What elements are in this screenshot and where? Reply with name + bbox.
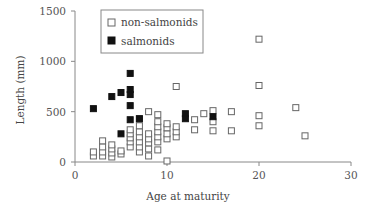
open-square-legend-icon (108, 19, 115, 26)
x-axis-title: Age at maturity (145, 190, 229, 202)
filled-square-marker (182, 116, 188, 122)
open-square-marker (256, 113, 262, 119)
open-square-marker (100, 144, 106, 150)
y-ticks: 050010001500 (39, 5, 75, 168)
filled-square-marker (210, 114, 216, 120)
open-square-marker (256, 82, 262, 88)
open-square-marker (256, 123, 262, 129)
open-square-marker (136, 123, 142, 129)
x-tick-label: 30 (344, 169, 357, 181)
open-square-marker (146, 109, 152, 115)
open-square-marker (173, 124, 179, 130)
filled-square-marker (127, 117, 133, 123)
open-square-marker (201, 111, 207, 117)
open-square-marker (146, 131, 152, 137)
open-square-marker (118, 148, 124, 154)
open-square-marker (192, 127, 198, 133)
open-square-marker (192, 117, 198, 123)
open-square-marker (210, 128, 216, 134)
open-square-marker (164, 158, 170, 164)
open-square-marker (164, 121, 170, 127)
y-tick-label: 0 (59, 156, 66, 168)
open-square-marker (136, 129, 142, 135)
open-square-marker (100, 138, 106, 144)
open-square-marker (256, 36, 262, 42)
series-non-salmonids (90, 36, 308, 164)
open-square-marker (302, 133, 308, 139)
y-tick-label: 500 (46, 106, 66, 118)
open-square-marker (293, 105, 299, 111)
y-tick-label: 1500 (39, 5, 66, 17)
x-ticks: 0102030 (72, 162, 358, 181)
open-square-marker (155, 112, 161, 118)
open-square-marker (146, 153, 152, 159)
filled-square-marker (127, 92, 133, 98)
filled-square-marker (127, 103, 133, 109)
filled-square-legend-icon (108, 37, 115, 44)
filled-square-marker (109, 94, 115, 100)
open-square-marker (228, 109, 234, 115)
open-square-marker (173, 84, 179, 90)
filled-square-marker (90, 106, 96, 112)
open-square-marker (164, 131, 170, 137)
open-square-marker (155, 119, 161, 125)
open-square-marker (155, 147, 161, 153)
x-tick-label: 10 (160, 169, 173, 181)
filled-square-marker (118, 90, 124, 96)
x-tick-label: 20 (252, 169, 265, 181)
y-tick-label: 1000 (39, 55, 66, 67)
filled-square-marker (136, 116, 142, 122)
filled-square-marker (118, 131, 124, 137)
open-square-marker (109, 142, 115, 148)
y-axis-title: Length (mm) (14, 55, 26, 124)
open-square-marker (146, 146, 152, 152)
open-square-marker (210, 108, 216, 114)
legend: non-salmonids salmonids (101, 10, 203, 53)
filled-square-marker (127, 70, 133, 76)
legend-label-salmonids: salmonids (121, 35, 175, 47)
legend-label-non-salmonids: non-salmonids (121, 16, 198, 28)
open-square-marker (127, 127, 133, 133)
scatter-chart: 050010001500 0102030 Age at maturity Len… (0, 0, 375, 210)
open-square-marker (228, 128, 234, 134)
open-square-marker (90, 149, 96, 155)
x-tick-label: 0 (72, 169, 79, 181)
